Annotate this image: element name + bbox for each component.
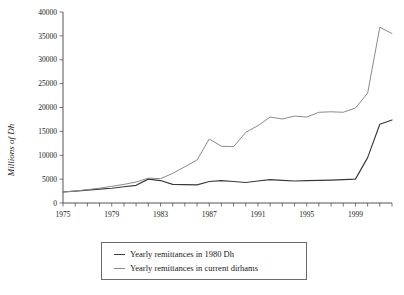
legend-item-current-dirhams: Yearly remittances in current dirhams bbox=[114, 262, 306, 275]
x-axis: 1975197919831987199119951999 bbox=[56, 203, 393, 219]
y-tick-label: 10000 bbox=[38, 151, 57, 160]
data-series-group bbox=[63, 27, 392, 192]
chart-legend: Yearly remittances in 1980 Dh Yearly rem… bbox=[101, 242, 307, 280]
y-tick-label: 15000 bbox=[38, 127, 57, 136]
legend-swatch-icon bbox=[114, 268, 125, 269]
x-tick-label: 1991 bbox=[250, 210, 265, 219]
y-tick-label: 30000 bbox=[38, 55, 57, 64]
x-tick-label: 1983 bbox=[153, 210, 168, 219]
y-tick-label: 5000 bbox=[42, 175, 57, 184]
series-line-2 bbox=[63, 27, 392, 192]
legend-label-1980-dh: Yearly remittances in 1980 Dh bbox=[130, 248, 234, 261]
x-tick-label: 1999 bbox=[348, 210, 363, 219]
x-tick-label: 1995 bbox=[299, 210, 314, 219]
x-tick-label: 1979 bbox=[104, 210, 119, 219]
series-line-1 bbox=[63, 120, 392, 192]
y-tick-label: 0 bbox=[53, 199, 57, 208]
y-axis-title: Millions of Dh bbox=[6, 123, 16, 177]
x-tick-label: 1975 bbox=[56, 210, 71, 219]
x-tick-label: 1987 bbox=[202, 210, 217, 219]
legend-swatch-icon bbox=[114, 254, 125, 255]
y-axis: 0500010000150002000025000300003500040000 bbox=[38, 8, 63, 208]
y-tick-label: 20000 bbox=[38, 103, 57, 112]
chart-figure: 0500010000150002000025000300003500040000… bbox=[0, 0, 404, 295]
legend-item-1980-dh: Yearly remittances in 1980 Dh bbox=[114, 248, 306, 261]
y-tick-label: 35000 bbox=[38, 32, 57, 41]
legend-label-current-dirhams: Yearly remittances in current dirhams bbox=[130, 262, 258, 275]
y-tick-label: 25000 bbox=[38, 79, 57, 88]
y-tick-label: 40000 bbox=[38, 8, 57, 17]
